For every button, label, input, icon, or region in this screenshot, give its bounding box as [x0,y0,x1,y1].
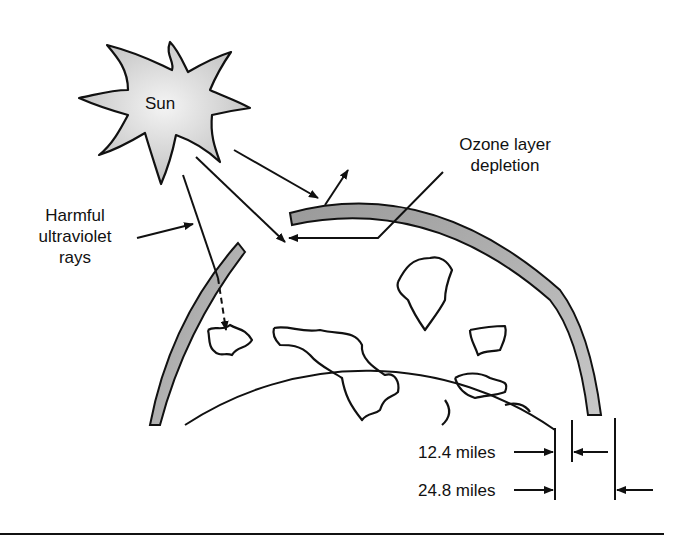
uv-ray-1 [183,175,218,278]
ozone-diagram [0,0,684,538]
uv-ray-2 [196,157,285,242]
ozone-label-line1: Ozone layer [430,134,580,155]
ozone-band-upper [290,204,601,415]
harmful-label-line1: Harmful [20,205,130,226]
dim-outer-label: 24.8 miles [418,480,495,501]
harmful-rays-label: Harmful ultraviolet rays [20,205,130,268]
dimension-markers [514,418,653,500]
sun-label: Sun [145,93,175,114]
harmful-pointer [137,224,193,238]
harmful-label-line2: ultraviolet [20,226,130,247]
ozone-label: Ozone layer depletion [430,134,580,176]
ozone-label-line2: depletion [430,155,580,176]
dim-inner-label: 12.4 miles [418,442,495,463]
reflected-ray [325,170,348,205]
uv-ray-3 [234,150,318,198]
continents [208,257,530,425]
earth-outline [185,371,555,430]
ozone-band-left [150,243,245,425]
harmful-label-line3: rays [20,247,130,268]
